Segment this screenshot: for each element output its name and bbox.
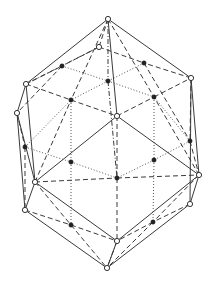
edge-solid: [190, 175, 199, 204]
edge-dashed: [25, 210, 71, 225]
edge-dotted: [62, 66, 108, 81]
vertex-open-C: [114, 113, 119, 118]
edge-dashed: [154, 78, 191, 97]
vertex-open-T: [105, 16, 110, 21]
vertex-filled-l: [151, 220, 155, 224]
edge-dashed: [26, 84, 71, 100]
polyhedron-diagram: [0, 0, 215, 286]
vertex-open-BF: [114, 238, 119, 243]
vertex-filled-b: [142, 61, 146, 65]
edge-solid: [108, 19, 117, 116]
hidden-edges-dotted: [25, 63, 190, 225]
edge-dashed: [154, 97, 199, 175]
vertex-filled-i: [152, 158, 156, 162]
edge-dashdot: [108, 81, 117, 178]
edge-solid: [108, 19, 191, 78]
polyhedron-wireframe: [0, 0, 215, 286]
edge-solid: [25, 182, 35, 210]
edge-solid: [26, 84, 35, 182]
vertex-filled-a: [60, 64, 64, 68]
vertex-filled-f: [23, 145, 27, 149]
vertex-open-L1: [23, 81, 28, 86]
edge-dashed: [26, 66, 62, 84]
edge-dashed: [144, 63, 190, 141]
vertex-open-LM: [32, 179, 37, 184]
edge-dashed: [117, 222, 153, 241]
vertex-filled-k: [69, 223, 73, 227]
edge-dashed: [35, 178, 117, 182]
edge-solid: [35, 182, 117, 241]
edge-dotted: [154, 97, 190, 141]
edge-dashed: [71, 19, 108, 100]
edge-dotted: [117, 160, 154, 178]
vertex-filled-j: [115, 176, 119, 180]
vertex-open-RL: [187, 201, 192, 206]
vertex-open-U: [96, 44, 101, 49]
vertex-open-RM: [196, 172, 201, 177]
vertex-open-B: [104, 265, 109, 270]
edge-solid: [117, 175, 199, 241]
edge-dotted: [71, 162, 117, 178]
edge-solid: [26, 19, 108, 84]
edge-dotted: [25, 100, 71, 147]
vertex-filled-h: [69, 160, 73, 164]
edge-solid: [35, 116, 117, 182]
edge-dashed: [117, 175, 199, 178]
open-vertices: [14, 16, 201, 270]
edge-dashed: [107, 222, 153, 268]
vertex-filled-d: [69, 98, 73, 102]
edge-dashed: [144, 63, 191, 78]
edge-solid: [117, 116, 199, 175]
edge-dashed: [35, 100, 71, 182]
edge-dashed: [117, 97, 154, 116]
edge-dotted: [71, 81, 108, 100]
vertex-open-LL: [22, 207, 27, 212]
edge-dashed: [99, 47, 144, 63]
vertex-filled-e: [152, 95, 156, 99]
edge-dotted: [153, 160, 154, 222]
edge-dashed: [153, 204, 190, 222]
edge-solid: [107, 204, 190, 268]
vertex-filled-c: [106, 79, 110, 83]
vertex-open-R1: [188, 75, 193, 80]
vertex-open-L2: [14, 110, 19, 115]
filled-vertices: [23, 61, 192, 227]
vertex-filled-g: [188, 139, 192, 143]
